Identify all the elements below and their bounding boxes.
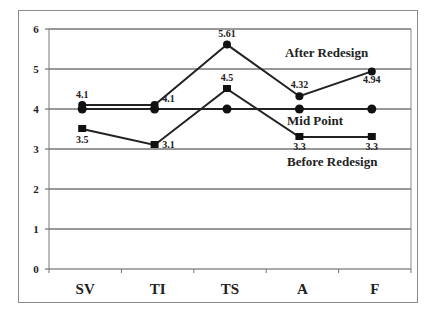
data-label: 3.1 <box>162 139 175 150</box>
data-label: 4.1 <box>76 89 89 100</box>
data-point <box>295 92 303 100</box>
y-tick-label: 4 <box>33 103 39 115</box>
x-category-label: TI <box>150 281 166 297</box>
y-tick-label: 0 <box>33 263 39 275</box>
line-chart: 0123456 SVTITSAF 4.14.15.614.324.943.53.… <box>0 0 437 317</box>
data-point <box>151 141 159 148</box>
x-category-labels: SVTITSAF <box>76 281 380 297</box>
data-point <box>223 41 231 49</box>
x-category-label: SV <box>76 281 95 297</box>
x-category-label: A <box>297 281 308 297</box>
data-label: 3.3 <box>366 141 379 152</box>
data-point <box>223 85 231 92</box>
data-label: 4.32 <box>291 79 309 90</box>
data-point <box>295 133 303 140</box>
data-point <box>150 105 159 114</box>
data-point <box>78 125 86 132</box>
data-point <box>367 105 376 114</box>
y-tick-label: 5 <box>33 63 39 75</box>
data-label: 4.94 <box>363 74 381 85</box>
data-label: 4.1 <box>162 93 175 104</box>
data-point <box>368 133 376 140</box>
axes <box>45 29 411 273</box>
data-label: 5.61 <box>218 28 236 39</box>
y-tick-labels: 0123456 <box>33 23 39 275</box>
y-tick-label: 2 <box>33 183 39 195</box>
x-category-label: TS <box>221 281 239 297</box>
y-tick-label: 6 <box>33 23 39 35</box>
mid-point-label: Mid Point <box>287 113 344 128</box>
after-redesign-label: After Redesign <box>285 45 369 60</box>
y-tick-label: 3 <box>33 143 39 155</box>
data-label: 3.3 <box>293 141 306 152</box>
x-category-label: F <box>370 281 379 297</box>
data-point <box>78 105 87 114</box>
data-label: 4.5 <box>221 72 234 83</box>
data-point <box>223 105 232 114</box>
y-tick-label: 1 <box>33 223 39 235</box>
before-redesign-label: Before Redesign <box>287 154 378 169</box>
data-label: 3.5 <box>76 134 89 145</box>
